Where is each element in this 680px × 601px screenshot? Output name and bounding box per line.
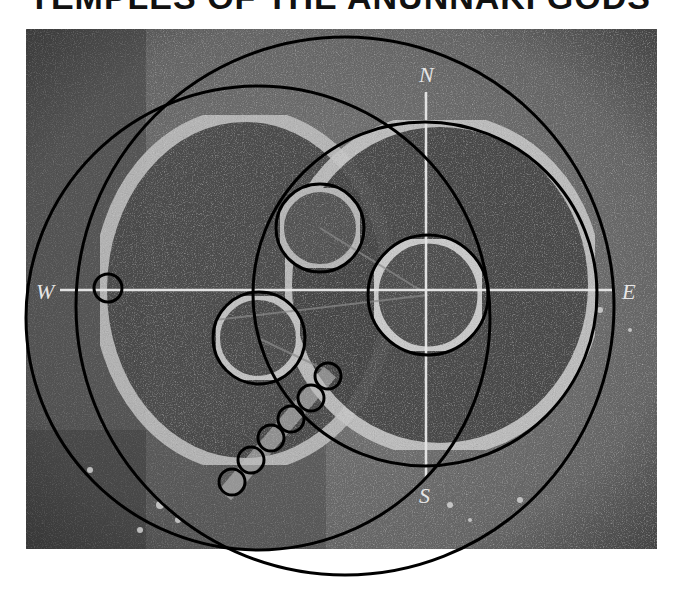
compass-west-label: W	[36, 279, 56, 304]
compass-north-label: N	[418, 62, 435, 87]
compass-east-label: E	[621, 279, 636, 304]
compass-south-label: S	[419, 483, 430, 508]
annotated-aerial-figure: N S E W	[0, 0, 680, 601]
figure-svg: N S E W	[0, 0, 680, 601]
